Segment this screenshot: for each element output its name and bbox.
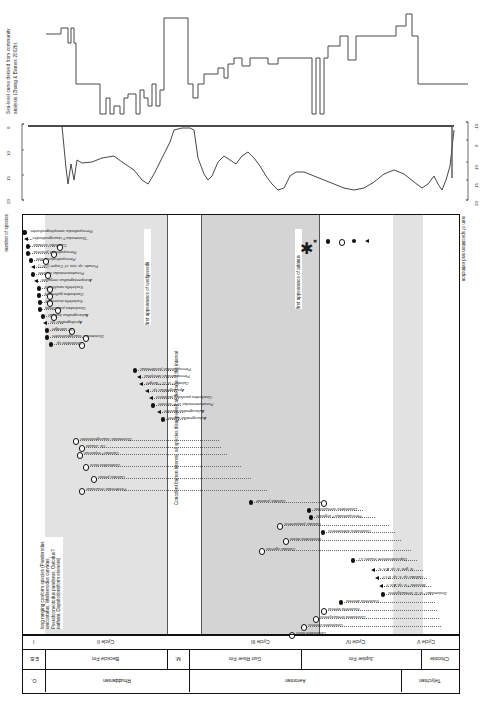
triangle-icon	[371, 568, 375, 572]
panel-c-right-axis-label: sum of speciation and extinction	[460, 216, 482, 306]
species-range-row: "Distomodus? staurognathoides"	[23, 236, 459, 243]
species-range-row: Pterospathodus postdentatus	[23, 367, 459, 374]
species-name: Oulodus? expansus	[84, 451, 118, 456]
species-range-row: Oulodus sp. n. sp. B s.f.	[23, 575, 459, 582]
panel-b-right-tick--10: -10	[474, 118, 479, 130]
species-name: Apsidognathus sp.	[50, 320, 82, 325]
species-range-row: Pterospathodus amorphus	[23, 374, 459, 381]
species-name: Oulodus petilus	[98, 475, 125, 480]
filled-circle-icon	[151, 403, 155, 407]
strat-cell-cycles: Cycle II	[45, 635, 167, 649]
filled-circle-icon	[133, 368, 137, 372]
strat-cell-label: Cycle V	[417, 639, 435, 645]
species-range-row: Carniodus carnulus	[23, 243, 459, 250]
filled-circle-icon	[161, 417, 165, 421]
sea-level-step-curve	[28, 6, 478, 116]
triangle-icon	[149, 396, 153, 400]
species-range-row: Dapsilodontiform elutans s.l.	[23, 557, 459, 564]
strat-cell-cycles	[167, 635, 201, 649]
strat-cell-label: M.	[175, 656, 181, 662]
filled-circle-icon	[307, 508, 311, 512]
species-name: Aulacognathus bullatus	[48, 313, 88, 318]
species-name: Aulacognathus kuehni	[168, 416, 206, 421]
species-range-row: Oulodus? expansus	[23, 451, 459, 458]
species-name: Ozarkodina oldhamensis	[328, 529, 371, 534]
strat-cell-label: Rhuddanian	[103, 678, 131, 684]
filled-circle-icon	[309, 515, 313, 519]
species-range-row: Pseudooneotodus tricornis	[23, 271, 459, 278]
species-range-row: Pterospathodus? originalis	[23, 514, 459, 521]
figure-root: Sea-level curve derived from community a…	[0, 0, 487, 710]
panel-b-right-tick-20: 20	[474, 196, 479, 206]
open-circle-icon	[313, 616, 319, 622]
bathymetry-curve	[22, 118, 464, 204]
species-range-row: Pterospathodus procerus	[23, 250, 459, 257]
species-range-row: Ozarkodina hassi	[23, 463, 459, 470]
filled-circle-icon	[37, 286, 41, 290]
species-range-row: Ozarkodina divina	[23, 537, 459, 544]
panel-b-left-tick-20: 20	[6, 194, 11, 204]
open-circle-icon	[83, 464, 89, 470]
species-range-row: Oulodus jeannae	[23, 499, 459, 506]
species-range-row: Oulodus agrestis	[23, 547, 459, 554]
species-range-row: Besselia ? n. sp. A n. f.	[23, 583, 459, 590]
species-name: Ozarkodina hassi	[90, 463, 120, 468]
panel-b-right-axis	[464, 120, 474, 202]
filled-circle-icon	[49, 342, 53, 346]
panel-b-left-tick-15: 15	[6, 171, 11, 181]
species-name: Oz. clavula	[86, 444, 105, 449]
species-name: Kockelella dekenta	[346, 599, 379, 604]
species-range-row: Oz. aldridgei	[23, 327, 459, 334]
species-range-row: Distomodus? cf. D. kentuckyensis	[23, 591, 459, 598]
open-circle-icon	[301, 624, 307, 630]
species-name: Oulodus agrestis	[266, 547, 295, 552]
species-name: Panderodus recurvatus	[86, 487, 126, 492]
species-range-row: Astropentagnathus irregularis	[23, 278, 459, 285]
strat-cell-formations: Jupiter Fm	[301, 649, 422, 669]
species-range-row: Distomodus staurognathoides	[23, 437, 459, 444]
species-name: Carniodus carnulus	[33, 243, 67, 248]
filled-circle-icon	[26, 251, 30, 255]
species-range-row: Apsidognathus sp.	[23, 388, 459, 395]
species-name: Pseudooneotodus cf. P. bicornis	[158, 402, 213, 407]
strat-cell-label: E.B.	[29, 656, 39, 662]
filled-circle-icon	[45, 328, 49, 332]
filled-circle-icon	[26, 244, 30, 248]
filled-circle-icon	[22, 230, 26, 234]
species-range-row: Ozarkodina parahassi parahassi	[23, 395, 459, 402]
strat-cell-stages: O.	[23, 669, 46, 692]
species-name: Ozarkodina kentuckyensis	[320, 615, 365, 620]
species-name: Distomodus staurognathoides	[80, 437, 131, 442]
species-name: Besselia ? n. sp. A n. f.	[386, 583, 426, 588]
strat-cell-label: Becscie Fm	[92, 656, 119, 662]
panel-bathymetry-curve: 0 10 15 20 -10 0 10 15 20	[0, 118, 487, 204]
species-name: Ozarkodina divina	[290, 537, 321, 542]
strat-row-cycles: ICycle IICycle IIICycle IVCycle V	[23, 635, 459, 650]
strat-cell-cycles: Cycle IV	[319, 635, 393, 649]
species-name: Pterospathodus procerus	[33, 250, 76, 255]
species-range-row: Ozarkodina gulletensis	[23, 292, 459, 299]
species-name: Distomodus? cf. D. kentuckyensis	[388, 591, 446, 596]
triangle-icon	[137, 375, 141, 379]
strat-cell-formations: M.	[167, 649, 190, 669]
strat-cell-formations: Becscie Fm	[45, 649, 168, 669]
strat-cell-label: Cycle III	[251, 639, 270, 645]
species-range-row: Ozarkodina polinclinata	[23, 306, 459, 313]
strat-cell-label: Cycle IV	[346, 639, 365, 645]
species-name: "Distomodus? staurognathoides"	[31, 236, 87, 241]
strat-cell-label: Aeronian	[285, 678, 306, 684]
triangle-icon	[43, 321, 47, 325]
strat-row-formations: E.B.Becscie FmM.Gun River FmJupiter FmCh…	[23, 649, 459, 670]
triangle-icon	[31, 265, 35, 269]
species-range-row: Oz. clavula	[23, 444, 459, 451]
triangle-icon	[379, 584, 383, 588]
species-range-row: Oulodus? cf. O.? fluegeli	[23, 381, 459, 388]
species-name: Pterospathodus celloni	[36, 257, 75, 262]
species-name: Distomodus staurognathoides	[52, 334, 103, 339]
strat-cell-stages: Telychian	[401, 669, 459, 692]
species-name: Aulacognathus bashkiri	[164, 409, 204, 414]
species-range-row: Ozarkodina kentuckyensis	[23, 615, 459, 622]
strat-cell-label: Chicotte	[430, 656, 449, 662]
strat-cell-label: Telychian	[419, 678, 441, 684]
species-range-row: Distomodus staurognathoides	[23, 334, 459, 341]
